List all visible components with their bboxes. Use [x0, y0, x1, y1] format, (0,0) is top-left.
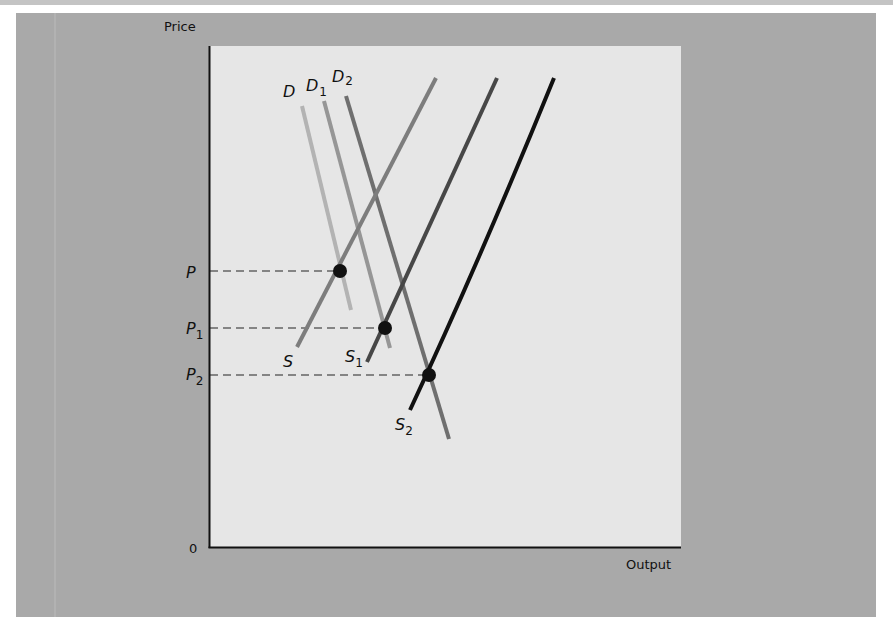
price-label-p: P [186, 263, 196, 282]
supply-demand-chart: Price Output 0 P P1 P2 D D1 D2 S S1 S2 [0, 0, 893, 627]
supply-label-s2: S2 [395, 415, 413, 438]
equilibrium-point-p1 [378, 321, 392, 335]
demand-curve-d [302, 106, 351, 310]
supply-curve-s [297, 78, 436, 347]
price-label-p1: P1 [186, 319, 203, 342]
x-axis-label: Output [626, 557, 671, 572]
price-label-p2: P2 [186, 365, 203, 388]
y-axis-label: Price [164, 19, 196, 34]
supply-curve-s1 [367, 78, 497, 362]
demand-label-d1-sub: 1 [319, 85, 327, 99]
supply-label-s1: S1 [345, 347, 363, 370]
supply-label-s2-main: S [395, 415, 405, 434]
equilibrium-point-p2 [422, 368, 436, 382]
price-label-p1-main: P [186, 319, 196, 338]
demand-label-d2: D2 [332, 67, 353, 88]
demand-label-d1-main: D [306, 76, 318, 95]
supply-label-s1-sub: 1 [355, 356, 363, 370]
price-label-p1-sub: 1 [196, 328, 204, 342]
demand-curve-d2 [346, 96, 449, 439]
demand-label-d2-main: D [332, 67, 344, 86]
supply-label-s1-main: S [345, 347, 355, 366]
demand-label-d: D [283, 82, 295, 101]
supply-curve-s2 [410, 78, 554, 410]
price-label-p2-sub: 2 [196, 374, 204, 388]
origin-label: 0 [189, 541, 197, 556]
supply-label-s: S [283, 352, 293, 371]
price-label-p2-main: P [186, 365, 196, 384]
equilibrium-point-p [333, 264, 347, 278]
supply-label-s2-sub: 2 [405, 424, 413, 438]
demand-label-d2-sub: 2 [345, 74, 353, 88]
demand-label-d1: D1 [306, 76, 327, 99]
